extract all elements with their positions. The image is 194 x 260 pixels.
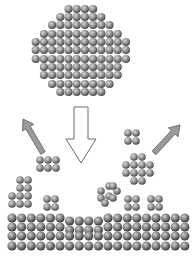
surface-atom [36, 231, 45, 240]
cluster-atom [89, 88, 97, 96]
surface-atom [132, 213, 141, 222]
cluster-atom [114, 63, 122, 71]
surface-atom [171, 222, 180, 231]
atom [130, 161, 138, 169]
surface-atom [7, 231, 16, 240]
surface-atom [123, 222, 132, 231]
surface-atom [132, 241, 141, 250]
cluster-atom [48, 30, 56, 38]
cluster-atom [64, 13, 72, 21]
atom [130, 153, 138, 161]
cluster-atom [73, 30, 81, 38]
surface-atom [36, 213, 45, 222]
cluster-atom [56, 63, 64, 71]
atom [124, 137, 132, 145]
cluster-atom [105, 46, 113, 54]
cluster-atom [81, 38, 89, 46]
surface-atom [151, 213, 160, 222]
cluster-atom [114, 55, 122, 63]
cluster-atom [64, 21, 72, 29]
atom [138, 161, 146, 169]
surface-atom [55, 222, 64, 231]
atom [52, 164, 60, 172]
cluster-atom [40, 30, 48, 38]
surface-atom [46, 213, 55, 222]
atom [52, 156, 60, 164]
atom [24, 184, 32, 192]
atom [147, 195, 155, 203]
surface-atom [55, 213, 64, 222]
surface-atom [161, 241, 170, 250]
surface-atom [151, 241, 160, 250]
cluster-atom [122, 46, 130, 54]
cluster-atom [56, 80, 64, 88]
cluster-atom [64, 55, 72, 63]
cluster-atom [32, 55, 40, 63]
atom [16, 200, 24, 208]
surface-atom [171, 213, 180, 222]
surface-atom [151, 222, 160, 231]
cluster-atom [40, 63, 48, 71]
atom [36, 156, 44, 164]
cluster-atom [40, 71, 48, 79]
cluster-atom [81, 46, 89, 54]
atom [138, 153, 146, 161]
cluster-atom [64, 80, 72, 88]
cluster-atom [97, 71, 105, 79]
surface-atom [75, 216, 84, 225]
surface-atom [161, 231, 170, 240]
atom [132, 195, 140, 203]
cluster-atom [48, 63, 56, 71]
cluster-atom [105, 21, 113, 29]
atom [97, 187, 105, 195]
cluster-deposition-diagram [0, 0, 194, 260]
atom [16, 192, 24, 200]
cluster-atom [32, 46, 40, 54]
surface-atom [84, 241, 93, 250]
atom [155, 203, 163, 211]
atom [124, 195, 132, 203]
surface-atom [17, 241, 26, 250]
surface-atom [132, 222, 141, 231]
cluster-atom [56, 13, 64, 21]
cluster-atom [73, 5, 81, 13]
atom [8, 200, 16, 208]
surface-atom [27, 213, 36, 222]
cluster-atom [56, 55, 64, 63]
atom [130, 169, 138, 177]
surface-atom [113, 222, 122, 231]
cluster-atom [97, 80, 105, 88]
surface-atom [17, 213, 26, 222]
atom [51, 203, 59, 211]
cluster-atom [81, 13, 89, 21]
surface-atom [142, 213, 151, 222]
cluster-atom [105, 55, 113, 63]
surface-atom [7, 241, 16, 250]
cluster-atom [81, 21, 89, 29]
cluster-atom [122, 38, 130, 46]
cluster-atom [97, 88, 105, 96]
cluster-atom [97, 38, 105, 46]
cluster-atom [48, 46, 56, 54]
cluster-atom [48, 71, 56, 79]
atom [16, 176, 24, 184]
cluster-atom [105, 80, 113, 88]
atom [146, 169, 154, 177]
cluster-atom [81, 88, 89, 96]
cluster-atom [81, 5, 89, 13]
cluster-atom [114, 38, 122, 46]
cluster-atom [73, 46, 81, 54]
cluster-atom [97, 13, 105, 21]
cluster-atom [64, 30, 72, 38]
cluster-atom [48, 55, 56, 63]
surface-atom [17, 222, 26, 231]
surface-atom [123, 213, 132, 222]
cluster-atom [114, 46, 122, 54]
cluster-atom [105, 71, 113, 79]
cluster-atom [97, 21, 105, 29]
atom [24, 192, 32, 200]
atom [101, 199, 109, 207]
atom [122, 169, 130, 177]
cluster-atom [105, 30, 113, 38]
atom [155, 195, 163, 203]
